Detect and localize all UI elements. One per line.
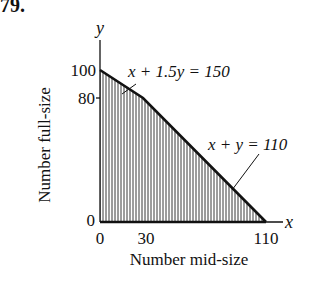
- x-tick-label-0: 0: [96, 229, 105, 248]
- constraint-label-1: x + 1.5y = 150: [127, 62, 230, 81]
- leader-line-2: [232, 154, 259, 190]
- x-tick-label-30: 30: [138, 229, 155, 248]
- y-axis-title: Number full-size: [35, 87, 54, 203]
- y-tick-label-80: 80: [78, 89, 95, 108]
- x-axis-symbol: x: [284, 212, 293, 232]
- y-axis-symbol: y: [94, 18, 104, 38]
- feasible-region-chart: y x 100 80 0 0 30 110 Number mid-size Nu…: [0, 0, 315, 286]
- y-tick-label-100: 100: [71, 61, 97, 80]
- x-axis-title: Number mid-size: [130, 250, 249, 269]
- constraint-label-2: x + y = 110: [207, 135, 288, 154]
- x-tick-label-110: 110: [254, 229, 279, 248]
- y-tick-label-0: 0: [87, 211, 96, 230]
